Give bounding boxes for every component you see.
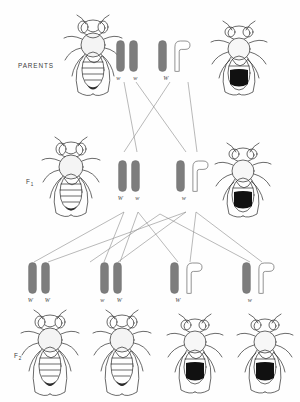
allele-label: w (244, 296, 257, 303)
allele-label: w (96, 296, 109, 303)
fly-drawing (88, 308, 156, 400)
allele-label-empty (177, 74, 190, 81)
allele-label: w (129, 74, 142, 81)
parents-male-chromosomes: W (158, 38, 191, 81)
chromosome-bar (176, 160, 185, 192)
allele-label: W (113, 296, 126, 303)
f2-fly-4 (232, 312, 298, 400)
parent-male-fly (204, 18, 274, 102)
f2-genotype-3: W (170, 260, 203, 303)
chromosome-bar (170, 262, 179, 294)
chromosome-bar (118, 160, 127, 192)
chromosome-hook (255, 262, 275, 294)
allele-label-empty (261, 296, 274, 303)
cross-line-p3 (124, 82, 170, 152)
fan-line-10 (90, 214, 160, 262)
allele-label: w (178, 194, 191, 201)
chromosome-bars (112, 38, 142, 72)
chromosome-labels: w W (96, 296, 126, 303)
f1-male-chromosomes: w (176, 158, 209, 201)
chromosome-bar (242, 262, 251, 294)
row-label-f1: F1 (26, 178, 34, 187)
allele-label: w (131, 194, 144, 201)
chromosome-hook (189, 160, 209, 192)
chromosome-labels: w (242, 296, 275, 303)
cross-line-p2 (136, 82, 186, 152)
chromosome-bars (176, 158, 209, 192)
chromosome-bar (116, 40, 125, 72)
cross-line-p4 (188, 82, 197, 152)
allele-label: W (24, 296, 37, 303)
allele-label: W (41, 296, 54, 303)
chromosome-labels: W (170, 296, 203, 303)
chromosome-bars (170, 260, 203, 294)
fan-line-3 (120, 212, 138, 262)
chromosome-bar (129, 40, 138, 72)
inheritance-diagram: PARENTS F1 F2 (0, 0, 300, 402)
allele-label-empty (189, 296, 202, 303)
row-label-f1-sub: 1 (31, 182, 34, 187)
f1-male-fly (208, 140, 278, 224)
chromosome-labels: W W (24, 296, 54, 303)
fan-line-7 (190, 212, 196, 262)
chromosome-bar (113, 262, 122, 294)
f2-fly-1 (16, 308, 84, 400)
allele-label-empty (195, 194, 208, 201)
row-label-parents: PARENTS (18, 62, 54, 69)
chromosome-bars (242, 260, 275, 294)
parents-female-chromosomes: w w (112, 38, 142, 81)
fan-line-4 (138, 212, 178, 262)
f2-genotype-2: w W (96, 260, 126, 303)
fan-line-2 (104, 212, 124, 262)
row-label-parents-text: PARENTS (18, 62, 54, 69)
chromosome-labels: W w (114, 194, 144, 201)
chromosome-bars (96, 260, 126, 294)
allele-label: w (112, 74, 125, 81)
f2-fly-3 (162, 312, 228, 400)
f2-genotype-1: W W (24, 260, 54, 303)
fly-drawing (162, 312, 228, 400)
chromosome-bars (114, 158, 144, 192)
f2-fly-2 (88, 308, 156, 400)
allele-label: W (172, 296, 185, 303)
chromosome-bar (100, 262, 109, 294)
fly-drawing (208, 140, 278, 224)
chromosome-bar (131, 160, 140, 192)
fly-drawing (36, 134, 106, 220)
f2-genotype-4: w (242, 260, 275, 303)
chromosome-bars (24, 260, 54, 294)
chromosome-bar (41, 262, 50, 294)
allele-label: W (160, 74, 173, 81)
fly-drawing (204, 18, 274, 102)
chromosome-bars (158, 38, 191, 72)
fly-drawing (16, 308, 84, 400)
chromosome-labels: w w (112, 74, 142, 81)
allele-label: W (114, 194, 127, 201)
chromosome-bar (28, 262, 37, 294)
fan-line-6 (118, 212, 186, 262)
chromosome-hook (171, 40, 191, 72)
f1-female-fly (36, 134, 106, 220)
chromosome-labels: W (158, 74, 191, 81)
chromosome-bar (158, 40, 167, 72)
f1-female-chromosomes: W w (114, 158, 144, 201)
chromosome-labels: w (176, 194, 209, 201)
fly-drawing (232, 312, 298, 400)
chromosome-hook (183, 262, 203, 294)
